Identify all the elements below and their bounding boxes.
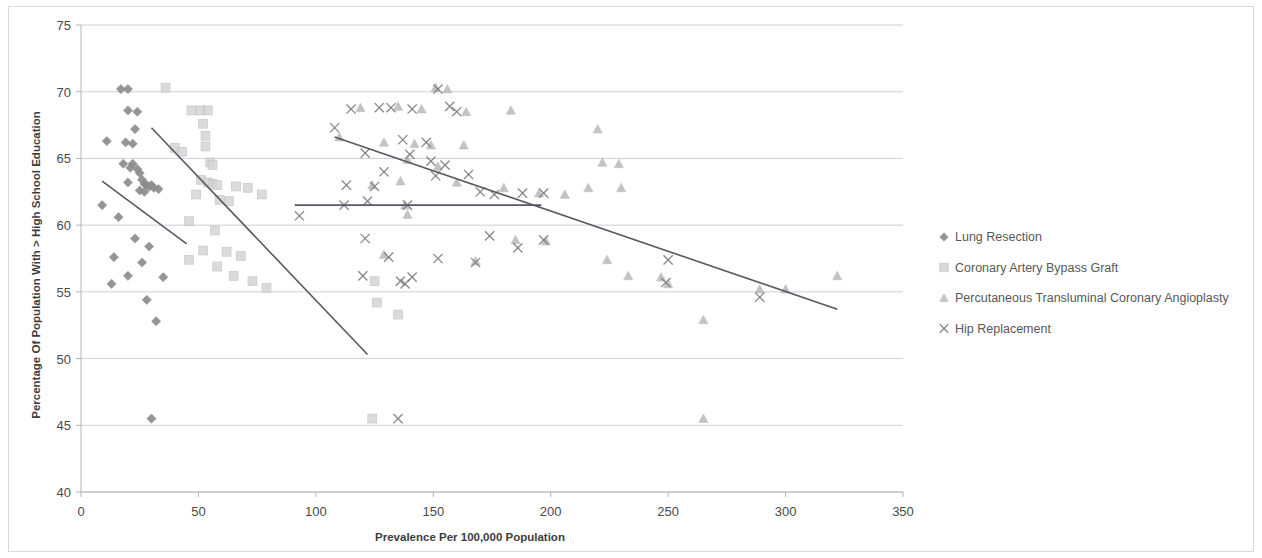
data-point [243,183,252,192]
series-3 [295,84,765,423]
data-point [236,251,245,260]
trendline-3 [335,137,838,309]
data-point [210,226,219,235]
data-point [145,242,154,251]
data-point [262,283,271,292]
data-point [459,140,468,149]
legend-marker-square-icon [940,263,948,271]
y-tick-label: 75 [57,18,71,33]
data-point [185,217,194,226]
data-point [373,298,382,307]
data-point [410,139,419,148]
series-2 [335,83,842,422]
series-1 [161,83,402,423]
data-point [133,107,142,116]
data-point [699,414,708,423]
data-point [107,279,116,288]
data-point [199,119,208,128]
data-point [342,181,351,190]
data-point [593,124,602,133]
legend-item-0[interactable]: Lung Resection [940,230,1042,244]
data-point [208,161,217,170]
data-point [403,210,412,219]
data-point [624,271,633,280]
data-point [511,235,520,244]
data-point [440,161,449,170]
x-tick-label: 350 [892,504,914,519]
plot-canvas: 4045505560657075050100150200250300350 Lu… [0,0,1262,558]
data-point [330,123,339,132]
y-axis-title: Percentage Of Population With > High Sch… [30,111,42,419]
data-point [598,158,607,167]
data-point [755,293,764,302]
data-point [379,167,388,176]
data-point [401,279,410,288]
data-point [398,135,407,144]
axes [76,25,903,497]
data-point [394,310,403,319]
data-point [422,138,431,147]
legend-item-3[interactable]: Hip Replacement [940,322,1052,336]
data-point [213,181,222,190]
data-point [159,273,168,282]
data-point [471,257,480,266]
data-point [485,231,494,240]
data-point [114,213,123,222]
x-tick-label: 0 [77,504,84,519]
data-point [462,107,471,116]
data-point [699,315,708,324]
y-tick-label: 70 [57,85,71,100]
legend-marker-cross-icon [940,324,948,332]
data-point [375,103,384,112]
legend-label: Hip Replacement [955,322,1051,336]
data-point [379,138,388,147]
data-point [123,84,132,93]
data-point [513,243,522,252]
series-0 [98,84,168,423]
data-point [617,183,626,192]
data-point [445,102,454,111]
data-point [560,190,569,199]
data-point [248,277,257,286]
data-point [185,255,194,264]
data-point [408,104,417,113]
data-point [142,295,151,304]
data-point [443,84,452,93]
data-point [201,131,210,140]
data-point [161,83,170,92]
data-point [614,159,623,168]
x-tick-label: 250 [657,504,679,519]
data-point [664,255,673,264]
data-point [361,148,370,157]
data-point [433,254,442,263]
legend-label: Percutaneous Transluminal Coronary Angio… [955,291,1230,305]
x-tick-label: 100 [305,504,327,519]
data-point [199,246,208,255]
y-tick-label: 60 [57,218,71,233]
data-point [109,253,118,262]
data-point [130,124,139,133]
data-point [452,107,461,116]
data-point [506,106,515,115]
legend-item-2[interactable]: Percutaneous Transluminal Coronary Angio… [940,291,1230,305]
data-point [405,150,414,159]
y-tick-label: 40 [57,485,71,500]
legend-marker-diamond-icon [940,233,948,241]
data-point [356,103,365,112]
data-point [426,156,435,165]
data-point [225,197,234,206]
data-point [137,258,146,267]
x-tick-label: 200 [540,504,562,519]
data-point [499,183,508,192]
data-points [98,83,842,423]
data-point [152,317,161,326]
data-point [123,271,132,280]
data-point [584,183,593,192]
data-point [464,170,473,179]
data-point [295,211,304,220]
data-point [203,106,212,115]
data-point [393,414,402,423]
legend-item-1[interactable]: Coronary Artery Bypass Graft [940,261,1119,275]
data-point [417,104,426,113]
data-point [102,136,111,145]
